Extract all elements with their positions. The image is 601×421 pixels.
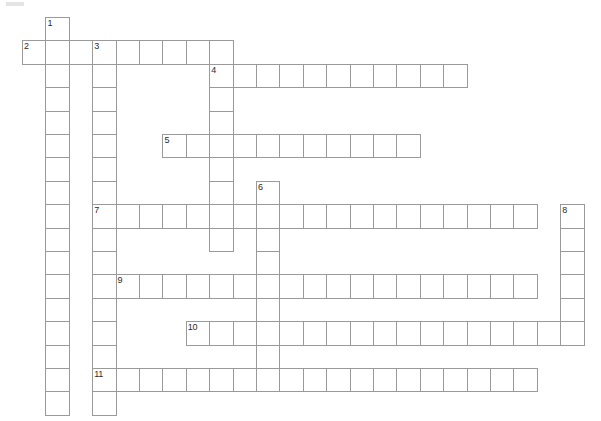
crossword-cell[interactable] [326, 368, 350, 392]
crossword-cell[interactable] [92, 298, 116, 322]
crossword-cell[interactable] [373, 134, 397, 158]
crossword-cell[interactable] [350, 274, 374, 298]
crossword-cell[interactable] [350, 204, 374, 228]
crossword-cell[interactable] [467, 204, 491, 228]
crossword-cell[interactable] [92, 274, 116, 298]
crossword-cell[interactable] [560, 251, 584, 275]
crossword-cell[interactable] [45, 111, 69, 135]
crossword-cell[interactable] [350, 368, 374, 392]
crossword-cell[interactable] [560, 228, 584, 252]
crossword-cell[interactable] [186, 40, 210, 64]
crossword-cell[interactable] [209, 157, 233, 181]
crossword-cell[interactable] [279, 274, 303, 298]
crossword-cell[interactable] [443, 204, 467, 228]
crossword-cell[interactable] [45, 228, 69, 252]
crossword-cell[interactable] [537, 321, 561, 345]
crossword-cell[interactable] [513, 274, 537, 298]
crossword-cell[interactable] [256, 368, 280, 392]
crossword-cell[interactable] [279, 134, 303, 158]
crossword-cell[interactable] [162, 204, 186, 228]
crossword-cell[interactable] [303, 64, 327, 88]
crossword-cell[interactable] [513, 368, 537, 392]
crossword-cell[interactable]: 2 [22, 40, 46, 64]
crossword-cell[interactable] [513, 204, 537, 228]
crossword-cell[interactable] [373, 321, 397, 345]
crossword-cell[interactable] [513, 321, 537, 345]
crossword-cell[interactable] [233, 321, 257, 345]
crossword-cell[interactable] [256, 134, 280, 158]
crossword-cell[interactable] [45, 181, 69, 205]
crossword-cell[interactable] [209, 111, 233, 135]
crossword-cell[interactable] [396, 134, 420, 158]
crossword-cell[interactable] [209, 321, 233, 345]
crossword-cell[interactable] [69, 40, 93, 64]
crossword-cell[interactable] [256, 64, 280, 88]
crossword-cell[interactable] [373, 274, 397, 298]
crossword-cell[interactable] [396, 64, 420, 88]
crossword-cell[interactable] [279, 204, 303, 228]
crossword-cell[interactable] [186, 204, 210, 228]
crossword-cell[interactable] [209, 204, 233, 228]
crossword-cell[interactable] [326, 274, 350, 298]
crossword-cell[interactable] [396, 368, 420, 392]
crossword-cell[interactable] [209, 368, 233, 392]
crossword-cell[interactable]: 4 [209, 64, 233, 88]
crossword-cell[interactable] [209, 40, 233, 64]
crossword-cell[interactable] [256, 345, 280, 369]
crossword-cell[interactable] [373, 368, 397, 392]
crossword-cell[interactable] [92, 345, 116, 369]
crossword-cell[interactable] [92, 111, 116, 135]
crossword-cell[interactable] [45, 368, 69, 392]
crossword-cell[interactable] [92, 321, 116, 345]
crossword-cell[interactable] [139, 204, 163, 228]
crossword-cell[interactable] [420, 204, 444, 228]
crossword-cell[interactable] [45, 40, 69, 64]
crossword-cell[interactable]: 7 [92, 204, 116, 228]
crossword-cell[interactable] [420, 64, 444, 88]
crossword-cell[interactable] [45, 64, 69, 88]
crossword-cell[interactable] [560, 298, 584, 322]
crossword-cell[interactable] [45, 345, 69, 369]
crossword-cell[interactable] [303, 204, 327, 228]
crossword-cell[interactable] [256, 251, 280, 275]
crossword-cell[interactable] [209, 181, 233, 205]
crossword-cell[interactable] [45, 391, 69, 415]
crossword-cell[interactable] [279, 321, 303, 345]
crossword-cell[interactable] [209, 228, 233, 252]
crossword-cell[interactable] [92, 64, 116, 88]
crossword-cell[interactable] [92, 391, 116, 415]
crossword-cell[interactable] [443, 274, 467, 298]
crossword-cell[interactable] [233, 204, 257, 228]
crossword-grid[interactable]: 1234567891011 [0, 0, 601, 421]
crossword-cell[interactable]: 11 [92, 368, 116, 392]
crossword-cell[interactable] [116, 204, 140, 228]
crossword-cell[interactable] [139, 368, 163, 392]
crossword-cell[interactable] [420, 368, 444, 392]
crossword-cell[interactable] [443, 64, 467, 88]
crossword-cell[interactable] [326, 321, 350, 345]
crossword-cell[interactable] [45, 321, 69, 345]
crossword-cell[interactable] [326, 134, 350, 158]
crossword-cell[interactable] [256, 228, 280, 252]
crossword-cell[interactable] [467, 274, 491, 298]
crossword-cell[interactable] [396, 274, 420, 298]
crossword-cell[interactable] [162, 274, 186, 298]
crossword-cell[interactable] [116, 368, 140, 392]
crossword-cell[interactable] [443, 321, 467, 345]
crossword-cell[interactable] [303, 321, 327, 345]
crossword-cell[interactable] [45, 134, 69, 158]
crossword-cell[interactable] [162, 40, 186, 64]
crossword-cell[interactable] [45, 157, 69, 181]
crossword-cell[interactable] [209, 87, 233, 111]
crossword-cell[interactable] [92, 228, 116, 252]
crossword-cell[interactable] [279, 368, 303, 392]
crossword-cell[interactable] [45, 204, 69, 228]
crossword-cell[interactable] [186, 368, 210, 392]
crossword-cell[interactable]: 3 [92, 40, 116, 64]
crossword-cell[interactable] [92, 134, 116, 158]
crossword-cell[interactable] [560, 274, 584, 298]
crossword-cell[interactable] [490, 321, 514, 345]
crossword-cell[interactable] [560, 321, 584, 345]
crossword-cell[interactable] [45, 251, 69, 275]
crossword-cell[interactable] [303, 134, 327, 158]
